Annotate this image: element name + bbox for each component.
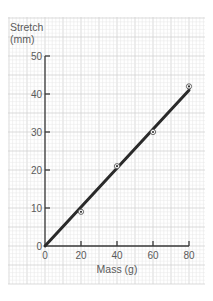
y-tick-label: 50 <box>31 51 43 62</box>
x-tick-label: 0 <box>42 250 48 261</box>
y-tick-label: 10 <box>31 203 43 214</box>
data-point-dot <box>188 85 190 87</box>
y-axis-title-line2: (mm) <box>10 33 35 45</box>
x-tick-label: 60 <box>147 250 159 261</box>
axis-ticks: 01020304050020406080 <box>31 51 195 262</box>
y-tick-label: 40 <box>31 89 43 100</box>
x-tick-label: 80 <box>183 250 195 261</box>
x-tick-label: 40 <box>111 250 123 261</box>
y-tick-label: 20 <box>31 165 43 176</box>
x-axis-title: Mass (g) <box>97 263 138 275</box>
y-tick-label: 30 <box>31 127 43 138</box>
data-point-dot <box>80 211 82 213</box>
stretch-vs-mass-chart: 01020304050020406080 Stretch (mm) Mass (… <box>0 0 213 301</box>
x-tick-label: 20 <box>75 250 87 261</box>
data-point-dot <box>152 131 154 133</box>
data-point-dot <box>116 165 118 167</box>
y-axis-title-line1: Stretch <box>10 21 43 33</box>
